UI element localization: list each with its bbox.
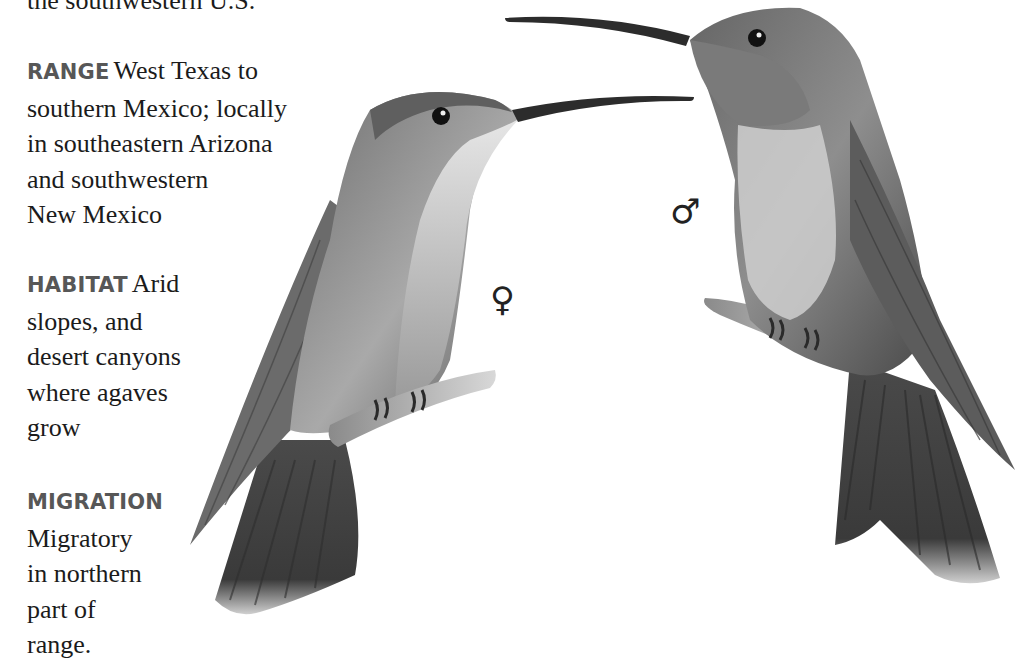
male-symbol-icon: ♂ (670, 194, 700, 228)
male-hummingbird (505, 8, 1015, 584)
female-symbol-icon: ♀ (490, 282, 515, 316)
female-hummingbird (190, 92, 694, 614)
hummingbird-illustration (0, 0, 1034, 658)
